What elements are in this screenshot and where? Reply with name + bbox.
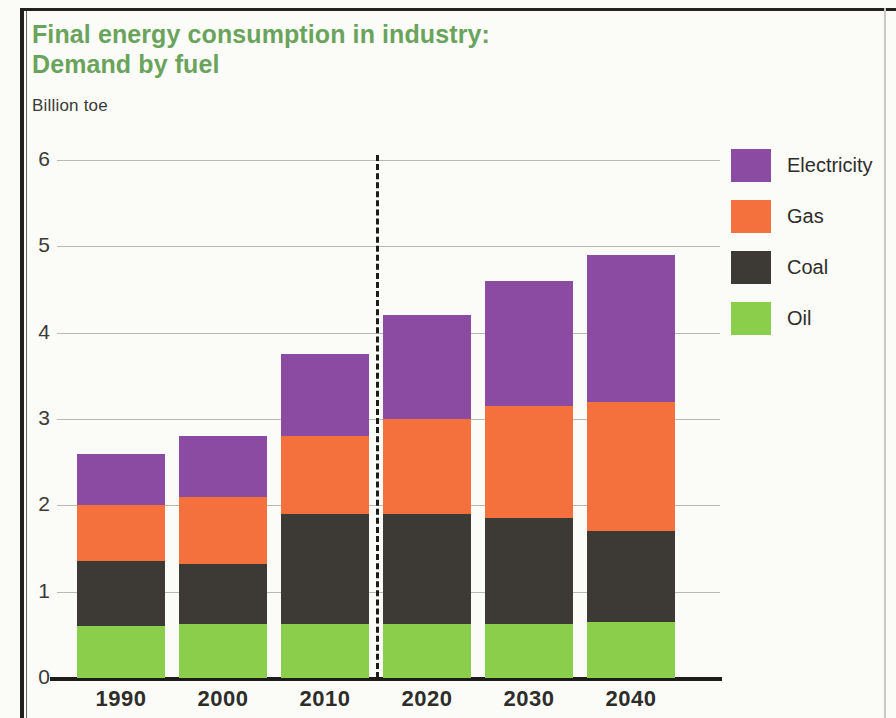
bar-segment-oil-2000 xyxy=(179,624,267,678)
y-axis-tick-label: 5 xyxy=(20,233,50,257)
bar-segment-oil-2010 xyxy=(281,624,369,678)
bar-2020 xyxy=(383,315,471,678)
legend-item-electricity[interactable]: Electricity xyxy=(731,140,873,191)
chart-legend: ElectricityGasCoalOil xyxy=(731,140,873,344)
x-axis-tick-label-1990: 1990 xyxy=(66,686,176,712)
x-axis-tick-label-2020: 2020 xyxy=(372,686,482,712)
bar-segment-electricity-2030 xyxy=(485,281,573,406)
y-axis-tick-label: 1 xyxy=(20,579,50,603)
bar-segment-oil-1990 xyxy=(77,626,165,678)
x-axis-tick-label-2030: 2030 xyxy=(474,686,584,712)
bar-segment-electricity-2010 xyxy=(281,354,369,436)
bar-segment-electricity-2040 xyxy=(587,255,675,402)
legend-label-coal: Coal xyxy=(787,256,828,279)
bar-segment-oil-2040 xyxy=(587,622,675,678)
bar-segment-gas-2030 xyxy=(485,406,573,518)
legend-label-electricity: Electricity xyxy=(787,154,873,177)
legend-swatch-coal xyxy=(731,251,771,284)
bar-segment-gas-2020 xyxy=(383,419,471,514)
bar-2030 xyxy=(485,281,573,678)
bar-2010 xyxy=(281,354,369,678)
bar-segment-gas-1990 xyxy=(77,505,165,561)
bar-segment-gas-2000 xyxy=(179,497,267,564)
y-axis-tick-label: 4 xyxy=(20,320,50,344)
bar-1990 xyxy=(77,454,165,678)
legend-swatch-oil xyxy=(731,302,771,335)
x-axis-tick-label-2010: 2010 xyxy=(270,686,380,712)
legend-swatch-gas xyxy=(731,200,771,233)
bar-segment-coal-2020 xyxy=(383,514,471,625)
history-projection-divider xyxy=(376,155,379,678)
gridline xyxy=(57,160,720,161)
bar-2040 xyxy=(587,255,675,678)
bar-segment-oil-2020 xyxy=(383,624,471,678)
legend-label-oil: Oil xyxy=(787,307,811,330)
bar-segment-gas-2040 xyxy=(587,402,675,532)
gridline xyxy=(57,246,720,247)
legend-item-coal[interactable]: Coal xyxy=(731,242,873,293)
legend-item-gas[interactable]: Gas xyxy=(731,191,873,242)
bar-segment-electricity-2020 xyxy=(383,315,471,419)
bar-segment-coal-2010 xyxy=(281,514,369,625)
bar-segment-electricity-2000 xyxy=(179,436,267,496)
y-axis-tick-label: 3 xyxy=(20,406,50,430)
bar-segment-oil-2030 xyxy=(485,624,573,678)
y-axis-tick-label: 6 xyxy=(20,147,50,171)
legend-swatch-electricity xyxy=(731,149,771,182)
bar-2000 xyxy=(179,436,267,678)
bar-segment-coal-2030 xyxy=(485,518,573,624)
bar-segment-coal-2000 xyxy=(179,564,267,624)
x-axis-tick-label-2000: 2000 xyxy=(168,686,278,712)
bar-segment-electricity-1990 xyxy=(77,454,165,506)
bar-segment-coal-2040 xyxy=(587,531,675,622)
bar-segment-coal-1990 xyxy=(77,561,165,626)
y-axis-tick-label: 2 xyxy=(20,492,50,516)
chart-page: Final energy consumption in industry: De… xyxy=(0,0,896,718)
legend-label-gas: Gas xyxy=(787,205,824,228)
bar-segment-gas-2010 xyxy=(281,436,369,514)
x-axis-tick-label-2040: 2040 xyxy=(576,686,686,712)
plot-area: 0123456199020002010202020302040 xyxy=(0,0,896,718)
y-axis-tick-label: 0 xyxy=(20,665,50,689)
legend-item-oil[interactable]: Oil xyxy=(731,293,873,344)
